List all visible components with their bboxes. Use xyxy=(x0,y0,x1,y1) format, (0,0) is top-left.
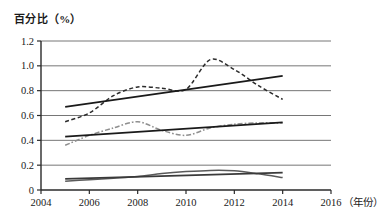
series-middle-trend xyxy=(65,122,283,136)
x-tick-label: 2004 xyxy=(31,197,53,208)
y-tick-label: 0 xyxy=(29,185,34,196)
series-upper-trend xyxy=(65,76,283,107)
x-axis-unit-label: （年份） xyxy=(343,196,383,208)
x-tick-label: 2012 xyxy=(224,197,245,208)
data-series-group xyxy=(65,59,283,181)
series-lower-trend xyxy=(65,173,283,179)
x-tick-label: 2006 xyxy=(79,197,100,208)
line-chart-plot: 00.20.40.60.81.01.2 20042006200820102012… xyxy=(0,0,388,221)
y-tick-label: 0.8 xyxy=(21,85,34,96)
x-tick-label: 2016 xyxy=(321,197,342,208)
x-tick-labels-group: 2004200620082010201220142016 xyxy=(31,197,342,208)
y-tick-label: 1.2 xyxy=(21,36,34,47)
y-tick-label: 0.2 xyxy=(21,160,34,171)
x-tick-label: 2010 xyxy=(176,197,197,208)
x-tick-label: 2014 xyxy=(272,197,294,208)
chart-container: 百分比（%） 00.20.40.60.81.01.2 2004200620082… xyxy=(0,0,388,221)
y-tick-labels-group: 00.20.40.60.81.01.2 xyxy=(21,36,35,196)
y-tick-label: 0.6 xyxy=(21,110,34,121)
y-tick-label: 1.0 xyxy=(21,60,34,71)
gridlines-group xyxy=(41,41,331,165)
y-tick-label: 0.4 xyxy=(21,135,35,146)
x-tick-label: 2008 xyxy=(127,197,148,208)
